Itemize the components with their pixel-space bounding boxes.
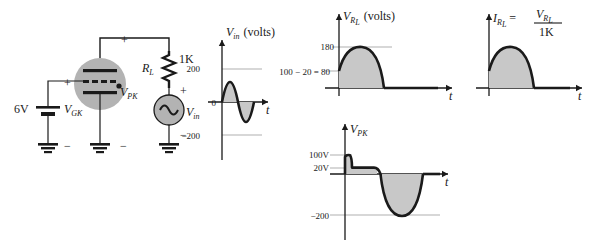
figure-svg: 6V VGK + − + VPK − RL 1K + Vin − Vin(vol… [0, 0, 591, 248]
irl-y-arrow [486, 14, 492, 20]
vpk-ytick-20: 20V [314, 163, 330, 173]
vpk-plot-group: VPK 100V 20V −200 t [309, 122, 449, 240]
vin-ytick-200: 200 [187, 64, 201, 74]
vpk-circuit-label: VPK [120, 85, 138, 101]
irl-fraction-numerator: VRL [536, 7, 553, 25]
irl-axis-label: IRL= [492, 11, 516, 29]
circuit-group: 6V VGK + − + VPK − RL 1K + Vin − [14, 33, 200, 153]
vrl-xlabel: t [449, 89, 453, 103]
vpk-spike-fill [345, 155, 377, 174]
vrl-y-arrow [336, 14, 342, 20]
plate-to-resistor-wire [100, 38, 169, 58]
vpk-axis-label: VPK [350, 122, 368, 138]
battery-symbol [36, 99, 60, 143]
vgk-label: VGK [64, 102, 83, 118]
ground-symbol-cathode [90, 143, 110, 153]
vpk-negative-fill [382, 174, 423, 216]
vin-ytick-neg200: −200 [181, 131, 200, 141]
irl-xlabel: t [578, 89, 582, 103]
battery-plus-sign: + [64, 76, 71, 90]
figure-container: 6V VGK + − + VPK − RL 1K + Vin − Vin(vol… [0, 0, 591, 248]
ground-symbol-battery [38, 143, 58, 153]
vrl-axis-label: VRL(volts) [343, 9, 395, 27]
irl-fraction-denominator: 1K [539, 25, 554, 39]
tube-minus-sign: − [120, 139, 127, 153]
vin-y-arrow [219, 40, 225, 46]
tube-plus-sign: + [121, 33, 128, 47]
vin-xlabel: t [266, 103, 270, 117]
source-plus-sign: + [180, 84, 187, 98]
ground-symbol-source [159, 143, 179, 153]
vpk-y-arrow [342, 124, 348, 130]
battery-minus-sign: − [64, 139, 71, 153]
tube-cathode [83, 91, 117, 94]
vpk-ytick-100: 100V [309, 150, 330, 160]
battery-value-label: 6V [14, 102, 29, 116]
vin-ytick-0: 0 [212, 98, 217, 108]
vin-circuit-label: Vin [186, 105, 200, 121]
resistor-symbol [163, 51, 175, 88]
resistor-symbol-label: RL [141, 61, 154, 77]
vin-axis-label: Vin(volts) [226, 25, 275, 41]
vpk-ytick-neg200: −200 [310, 211, 329, 221]
vin-plot-group: Vin(volts) 200 0 −200 t [181, 25, 275, 160]
vpk-xlabel: t [445, 175, 449, 189]
vrl-annotation: 100 − 20 = 80 [279, 67, 330, 77]
vrl-ytick-180: 180 [321, 42, 335, 52]
vrl-plot-group: VRL(volts) 180 100 − 20 = 80 t [279, 9, 453, 103]
irl-plot-group: IRL= VRL 1K t [476, 7, 582, 103]
tube-plate [83, 69, 117, 72]
